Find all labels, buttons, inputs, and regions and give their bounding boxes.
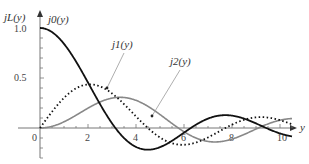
curves xyxy=(40,28,292,150)
x-tick-label: 4 xyxy=(133,132,138,143)
x-tick-label: 0 xyxy=(32,132,37,143)
label-j1: j1(y) xyxy=(110,38,133,51)
annotations: j0(y)j1(y)j2(y) xyxy=(46,13,191,117)
series-j2 xyxy=(40,97,292,142)
x-tick-label: 8 xyxy=(229,132,234,143)
x-axis-label: y xyxy=(299,121,305,133)
label-j2: j2(y) xyxy=(168,55,191,68)
bessel-chart: yjL(y)02468100.51.0 j0(y)j1(y)j2(y) xyxy=(0,0,309,164)
series-j0 xyxy=(40,28,292,150)
y-axis-arrow-icon xyxy=(37,10,43,17)
x-tick-label: 2 xyxy=(85,132,90,143)
y-tick-label: 1.0 xyxy=(14,23,27,34)
y-tick-label: 0.5 xyxy=(14,72,27,83)
x-axis-arrow-icon xyxy=(290,125,297,131)
label-j0: j0(y) xyxy=(46,13,69,26)
axes: yjL(y)02468100.51.0 xyxy=(2,10,305,158)
